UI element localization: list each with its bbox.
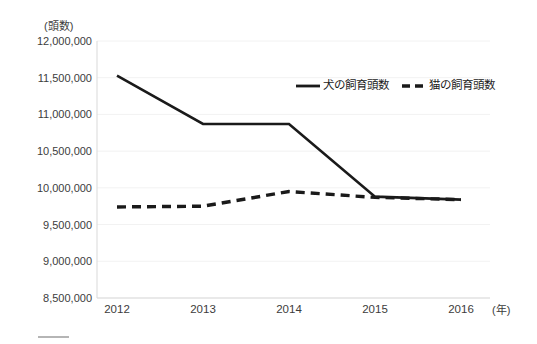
series-lines <box>117 76 461 207</box>
y-axis-tick-label: 11,500,000 <box>38 72 92 84</box>
bottom-rule-decoration <box>38 336 69 338</box>
y-axis-tick-label: 11,000,000 <box>38 108 92 120</box>
legend-item-cat: 猫の飼育頭数 <box>402 80 495 92</box>
legend-swatch-solid-line-icon <box>296 80 320 92</box>
legend-swatch-dashed-line-icon <box>402 80 426 92</box>
x-axis-tick-label: 2013 <box>173 303 233 315</box>
x-axis-unit-label: (年) <box>492 301 510 317</box>
line-chart-figure: (頭数) (年) 8,500,0009,000,0009,500,00010,0… <box>0 0 537 344</box>
y-axis-tick-labels: 8,500,0009,000,0009,500,00010,000,00010,… <box>0 0 92 344</box>
chart-legend: 犬の飼育頭数猫の飼育頭数 <box>296 80 495 92</box>
y-axis-tick-label: 10,500,000 <box>37 145 92 157</box>
legend-label: 猫の飼育頭数 <box>429 80 495 92</box>
y-axis-tick-label: 12,000,000 <box>37 35 92 47</box>
x-axis-tick-label: 2012 <box>87 303 147 315</box>
legend-label: 犬の飼育頭数 <box>323 80 389 92</box>
x-axis-tick-label: 2014 <box>259 303 319 315</box>
legend-item-dog: 犬の飼育頭数 <box>296 80 389 92</box>
y-axis-tick-label: 9,500,000 <box>43 219 92 231</box>
y-axis-tick-label: 8,500,000 <box>43 292 92 304</box>
y-axis-tick-label: 9,000,000 <box>43 255 92 267</box>
x-axis-tick-label: 2015 <box>345 303 405 315</box>
series-line-dog <box>117 76 461 200</box>
series-line-cat <box>117 192 461 207</box>
y-axis-tick-label: 10,000,000 <box>37 182 92 194</box>
x-axis-tick-label: 2016 <box>431 303 491 315</box>
